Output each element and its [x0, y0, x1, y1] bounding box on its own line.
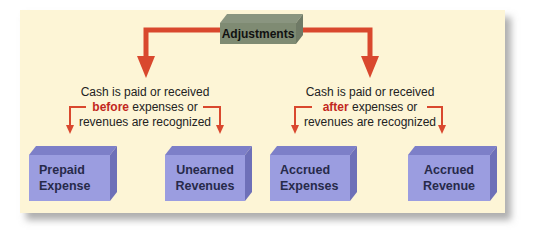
adjustments-label: Adjustments [222, 26, 295, 42]
accrued-expenses-box: Accrued Expenses [270, 146, 357, 201]
accrued-revenue-box: Accrued Revenue [408, 146, 497, 201]
emphasis-before: before [92, 100, 129, 114]
emphasis-after: after [323, 100, 349, 114]
main-arrow-right [303, 30, 370, 58]
main-arrow-left [146, 30, 220, 58]
caption-before: Cash is paid or received before expenses… [60, 85, 230, 130]
unearned-revenues-box: Unearned Revenues [165, 146, 252, 201]
adjustments-box: Adjustments [220, 14, 303, 44]
prepaid-expense-box: Prepaid Expense [29, 146, 117, 201]
arrowhead-icon [361, 56, 379, 78]
arrowhead-icon [137, 56, 155, 78]
caption-after: Cash is paid or received after expenses … [285, 85, 455, 130]
